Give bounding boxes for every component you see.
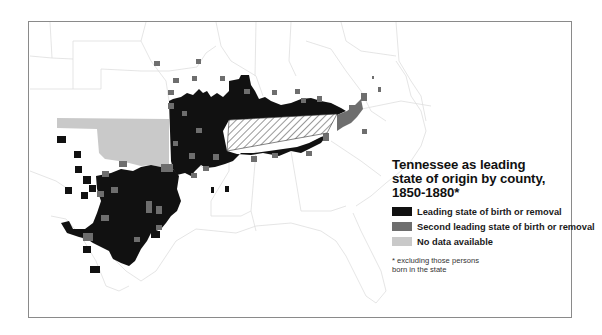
legend-label-no-data: No data available <box>417 237 493 247</box>
footnote: * excluding those persons born in the st… <box>392 256 572 274</box>
legend-title-line-2: state of origin by county, <box>392 172 572 186</box>
legend-swatch-no-data <box>392 237 412 246</box>
legend-label-leading: Leading state of birth or removal <box>417 207 562 217</box>
tennessee-hatched <box>227 114 337 151</box>
legend-label-second: Second leading state of birth or removal <box>417 222 595 232</box>
legend-swatch-second <box>392 222 412 231</box>
legend-swatch-leading <box>392 207 412 216</box>
footnote-line-1: * excluding those persons <box>392 256 572 265</box>
legend: Tennessee as leading state of origin by … <box>392 158 572 274</box>
legend-item-no-data: No data available <box>392 234 572 249</box>
footnote-line-2: born in the state <box>392 265 572 274</box>
legend-item-leading: Leading state of birth or removal <box>392 204 572 219</box>
legend-item-second: Second leading state of birth or removal <box>392 219 572 234</box>
leading-counties <box>57 75 346 273</box>
state-borders <box>30 22 431 303</box>
legend-title: Tennessee as leading state of origin by … <box>392 158 572 200</box>
legend-title-line-1: Tennessee as leading <box>392 158 572 172</box>
no-data-region-oklahoma <box>57 118 169 167</box>
legend-title-line-3: 1850-1880* <box>392 186 572 200</box>
